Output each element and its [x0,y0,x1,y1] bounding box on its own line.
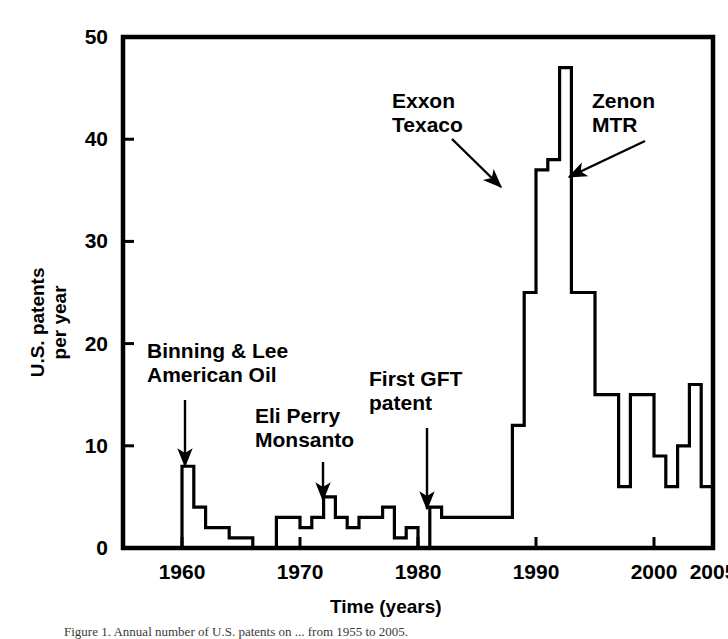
annotation-exxon-texaco: ExxonTexaco [392,89,501,187]
annotation-arrow-zenon-mtr [569,141,645,177]
y-tick-label-50: 50 [85,25,108,48]
y-tick-label-20: 20 [85,332,108,355]
annotation-label-exxon-texaco: Exxon [392,89,455,112]
annotation-label-exxon-texaco: Texaco [392,113,463,136]
annotation-label-eli-perry: Eli Perry [255,404,341,427]
y-tick-label-30: 30 [85,229,108,252]
x-tick-label-1980: 1980 [395,560,442,583]
annotation-label-binning-lee: Binning & Lee [147,339,288,362]
y-tick-label-0: 0 [96,536,108,559]
annotation-label-first-gft: First GFT [369,367,463,390]
y-tick-label-40: 40 [85,127,108,150]
annotation-label-first-gft: patent [369,391,432,414]
y-axis-title: U.S. patents per year [27,197,72,447]
x-tick-label-2000: 2000 [631,560,678,583]
annotation-label-zenon-mtr: Zenon [592,89,655,112]
annotation-first-gft: First GFTpatent [369,367,463,509]
x-tick-label-1960: 1960 [159,560,206,583]
y-axis-title-wrap: U.S. patents per year [0,150,60,400]
x-tick-label-2005: 2005 [690,560,728,583]
data-step-line [123,68,713,548]
chart-plot-area: 01020304050196019701980199020002005Binni… [0,0,728,639]
annotation-eli-perry: Eli PerryMonsanto [255,404,354,500]
annotation-label-binning-lee: American Oil [147,363,277,386]
x-tick-label-1990: 1990 [513,560,560,583]
y-tick-label-10: 10 [85,434,108,457]
figure-caption: Figure 1. Annual number of U.S. patents … [0,624,728,639]
x-tick-label-1970: 1970 [277,560,324,583]
annotation-zenon-mtr: ZenonMTR [569,89,655,177]
annotation-label-zenon-mtr: MTR [592,113,638,136]
annotation-arrow-exxon-texaco [452,139,501,187]
annotation-label-eli-perry: Monsanto [255,428,354,451]
patent-chart-figure: 01020304050196019701980199020002005Binni… [0,0,728,639]
x-axis-title: Time (years) [330,596,442,618]
